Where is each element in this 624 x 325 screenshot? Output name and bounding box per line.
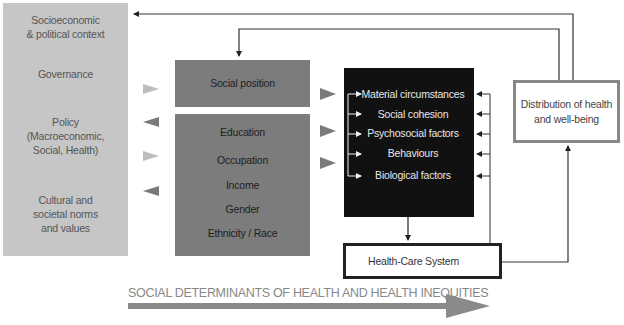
feedback-arrow-to-context [134, 14, 573, 80]
feedback-arrow-to-social-position [239, 29, 559, 80]
footer-arrow-icon [128, 294, 490, 318]
arrow-right-dark-icon [320, 125, 336, 137]
context-to-position-arrows [143, 84, 159, 196]
arrow-right-light-icon [143, 151, 159, 161]
arrow-right-dark-icon [320, 88, 336, 100]
health-care-feedback-bracket [477, 94, 490, 243]
arrow-left-dark-icon [143, 117, 159, 127]
position-to-intermediary-arrows [320, 88, 336, 169]
arrow-right-light-icon [143, 84, 159, 94]
health-care-to-distribution-arrow [502, 146, 568, 262]
arrow-right-dark-icon [320, 157, 336, 169]
intermediary-left-bracket [348, 94, 361, 176]
arrow-left-dark-icon [143, 186, 159, 196]
connectors [0, 0, 624, 325]
